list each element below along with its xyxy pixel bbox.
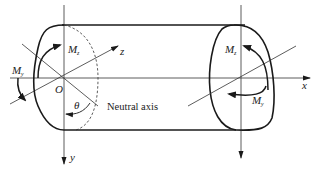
svg-text:y: y: [260, 101, 264, 107]
z-axis-label: z: [119, 45, 125, 57]
moment-left-y: M y: [11, 64, 25, 100]
svg-text:z: z: [76, 50, 80, 56]
moment-left-z: M z: [38, 43, 80, 78]
svg-text:z: z: [233, 50, 237, 56]
svg-text:y: y: [20, 71, 24, 77]
origin-label: O: [55, 83, 63, 95]
moment-right-z: M z: [224, 43, 268, 90]
right-end-cap: [210, 25, 275, 130]
right-section-line: [188, 46, 296, 106]
bending-diagram: x y z M: [0, 0, 322, 174]
moment-right-y: M y: [229, 86, 266, 107]
y-axis-label: y: [69, 151, 75, 163]
theta-label: θ: [74, 99, 80, 111]
neutral-axis-label: Neutral axis: [107, 101, 158, 112]
x-axis-label: x: [301, 79, 307, 91]
y-axis: y: [64, 5, 75, 164]
